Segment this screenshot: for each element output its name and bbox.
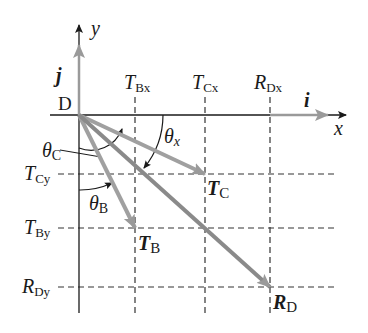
vector-tc [79, 115, 205, 174]
vector-diagram: y x i j D TBx TCx RDx TCy TBy RDy TC TB [0, 0, 368, 333]
tcy-label: TCy [24, 162, 51, 186]
rd-vector-label: RD [272, 291, 297, 315]
theta-x-arc [144, 115, 163, 168]
j-label: j [53, 64, 62, 87]
origin-label: D [58, 93, 72, 114]
y-axis-label: y [89, 17, 100, 40]
tby-label: TBy [24, 216, 51, 240]
theta-b-arc [79, 183, 112, 190]
tb-vector-label: TB [138, 232, 160, 256]
tc-vector-label: TC [207, 177, 229, 201]
i-label: i [304, 89, 310, 111]
theta-c-label: θC [42, 139, 61, 163]
tcx-label: TCx [192, 71, 219, 95]
tbx-label: TBx [124, 71, 151, 95]
rdx-label: RDx [253, 71, 283, 95]
x-axis-label: x [333, 117, 343, 139]
theta-x-label: θx [164, 125, 181, 149]
theta-b-label: θB [89, 192, 108, 216]
rdy-label: RDy [21, 275, 51, 299]
labels: y x i j D TBx TCx RDx TCy TBy RDy TC TB [21, 17, 343, 315]
